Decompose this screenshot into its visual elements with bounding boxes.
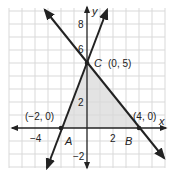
y-tick-8: 8: [78, 19, 84, 30]
point-c-coords: (0, 5): [108, 58, 131, 69]
point-b-label: B: [125, 135, 132, 147]
point-b: [137, 126, 142, 131]
point-b-coords: (4, 0): [133, 111, 156, 122]
coordinate-graph: y x 8 6 2 −2 −4 2 A B C (−2, 0) (4, 0) (…: [0, 0, 173, 175]
y-tick-2: 2: [78, 97, 84, 108]
x-axis-label: x: [158, 115, 165, 127]
y-tick-neg2: −2: [73, 151, 85, 162]
point-a-coords: (−2, 0): [25, 111, 54, 122]
x-tick-neg4: −4: [30, 133, 42, 144]
point-a-label: A: [64, 135, 72, 147]
point-a: [59, 126, 64, 131]
point-c-label: C: [94, 57, 102, 69]
point-c: [85, 61, 90, 66]
line-bc: [45, 10, 164, 158]
y-tick-6: 6: [78, 44, 84, 55]
x-tick-2: 2: [110, 133, 116, 144]
